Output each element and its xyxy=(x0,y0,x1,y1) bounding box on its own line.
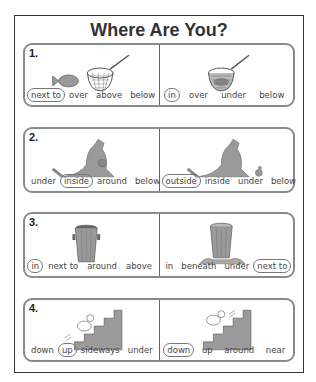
word-choice[interactable]: inside xyxy=(60,174,93,188)
exercise-row-2: 2. under inside around below outside xyxy=(23,127,295,193)
word-choice[interactable]: around xyxy=(83,259,121,273)
cell-3-left: 3. in next to around above xyxy=(25,214,159,276)
cell-4-left: 4. down up sideways under xyxy=(25,300,159,360)
word-choices: in over under below xyxy=(162,88,292,102)
word-choice[interactable]: below xyxy=(255,88,288,102)
word-choice[interactable]: around xyxy=(220,343,258,357)
word-choice[interactable]: sideways xyxy=(77,343,124,357)
word-choices: down up sideways under xyxy=(27,343,157,357)
word-choice[interactable]: up xyxy=(58,343,77,357)
word-choice[interactable]: beneath xyxy=(177,259,220,273)
word-choice[interactable]: next to xyxy=(27,88,65,102)
word-choice[interactable]: in xyxy=(162,259,178,273)
word-choice[interactable]: outside xyxy=(162,174,201,188)
cell-1-right: in over under below xyxy=(159,45,294,105)
word-choice[interactable]: above xyxy=(122,259,156,273)
word-choice[interactable]: below xyxy=(267,174,300,188)
word-choice[interactable]: up xyxy=(198,343,217,357)
word-choices: under inside around below xyxy=(27,174,157,188)
exercise-row-3: 3. in next to around above in xyxy=(23,212,295,278)
word-choice[interactable]: below xyxy=(126,88,159,102)
word-choice[interactable]: under xyxy=(217,88,250,102)
word-choice[interactable]: down xyxy=(27,343,58,357)
cell-1-left: 1. next to over above below xyxy=(25,45,159,105)
exercise-row-1: 1. next to over above below xyxy=(23,43,295,107)
word-choice[interactable]: over xyxy=(185,88,212,102)
word-choice[interactable]: next to xyxy=(253,259,291,273)
cell-2-right: outside inside under below xyxy=(159,129,294,191)
worksheet: Where Are You? 1. next to over above bel… xyxy=(14,15,304,373)
word-choice[interactable]: under xyxy=(220,259,253,273)
word-choice[interactable]: inside xyxy=(201,174,234,188)
cell-2-left: 2. under inside around below xyxy=(25,129,159,191)
word-choice[interactable]: over xyxy=(65,88,92,102)
word-choices: in beneath under next to xyxy=(162,259,292,273)
word-choice[interactable]: above xyxy=(92,88,126,102)
word-choice[interactable]: under xyxy=(124,343,157,357)
word-choices: outside inside under below xyxy=(162,174,292,188)
word-choice[interactable]: down xyxy=(163,343,194,357)
exercise-row-4: 4. down up sideways under dow xyxy=(23,298,295,362)
word-choice[interactable]: in xyxy=(27,259,43,273)
word-choices: in next to around above xyxy=(27,259,157,273)
word-choice[interactable]: under xyxy=(27,174,60,188)
word-choices: down up around near xyxy=(162,343,292,357)
word-choice[interactable]: under xyxy=(234,174,267,188)
word-choice[interactable]: next to xyxy=(44,259,82,273)
word-choice[interactable]: near xyxy=(262,343,289,357)
word-choices: next to over above below xyxy=(27,88,157,102)
cell-4-right: down up around near xyxy=(159,300,294,360)
cell-3-right: in beneath under next to xyxy=(159,214,294,276)
page-title: Where Are You? xyxy=(15,20,303,41)
word-choice[interactable]: in xyxy=(164,88,180,102)
word-choice[interactable]: around xyxy=(93,174,131,188)
